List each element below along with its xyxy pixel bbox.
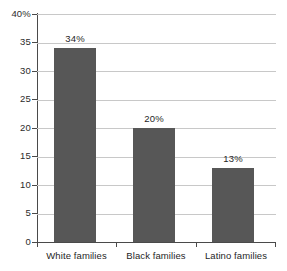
bar-value-label-white-families: 34% (54, 34, 96, 44)
x-axis-tick-mark-1 (116, 243, 117, 247)
y-axis-tick-label-40: 40% (1, 9, 31, 19)
bar-black-families (133, 128, 175, 242)
x-axis-tick-mark-0 (37, 243, 38, 247)
y-axis-tick-label-15: 15 (1, 151, 31, 161)
x-axis-category-label-black-families: Black families (116, 250, 196, 261)
y-axis-tick-label-10: 10 (1, 180, 31, 190)
y-axis-tick-label-30: 30 (1, 66, 31, 76)
caption-sliver (14, 265, 194, 270)
gridline-40 (37, 14, 276, 15)
y-axis-tick-label-35: 35 (1, 37, 31, 47)
x-axis-tick-mark-2 (196, 243, 197, 247)
y-axis-labels: 40% 35 30 25 20 15 10 5 0 (0, 0, 31, 271)
x-axis-category-label-latino-families: Latino families (196, 250, 276, 261)
y-axis-tick-label-20: 20 (1, 123, 31, 133)
y-axis-tick-label-25: 25 (1, 94, 31, 104)
bar-value-label-black-families: 20% (133, 114, 175, 124)
bar-latino-families (212, 168, 254, 242)
bar-white-families (54, 48, 96, 242)
bar-chart: 40% 35 30 25 20 15 10 5 0 34% 20% 13% (0, 0, 287, 271)
x-axis-category-label-white-families: White families (37, 250, 116, 261)
x-axis-line (37, 242, 276, 243)
y-axis-tick-label-0: 0 (1, 237, 31, 247)
plot-area (37, 14, 276, 242)
x-axis-tick-mark-3 (275, 243, 276, 247)
y-axis-tick-label-5: 5 (1, 208, 31, 218)
bar-value-label-latino-families: 13% (212, 154, 254, 164)
